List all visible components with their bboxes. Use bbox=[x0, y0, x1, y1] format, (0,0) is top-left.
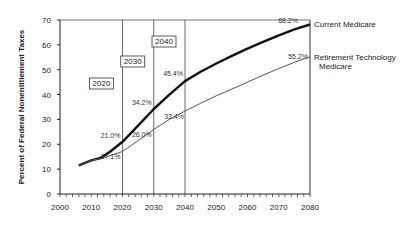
data-label: 55.2% bbox=[288, 53, 308, 60]
x-tick-label: 2070 bbox=[270, 203, 288, 212]
data-labels: 21.0%34.2%45.4%68.2%17.1%26.0%33.4%55.2% bbox=[101, 17, 308, 160]
data-label: 17.1% bbox=[101, 153, 121, 160]
y-tick-label: 0 bbox=[47, 190, 52, 199]
x-tick-label: 2050 bbox=[207, 203, 225, 212]
legend-label: Retirement Technology bbox=[314, 53, 396, 62]
data-label: 33.4% bbox=[164, 113, 184, 120]
y-tick-label: 20 bbox=[42, 140, 51, 149]
reference-label-2020: 2020 bbox=[93, 79, 111, 88]
data-label: 45.4% bbox=[163, 70, 183, 77]
y-tick-label: 60 bbox=[42, 41, 51, 50]
legend-label: Current Medicare bbox=[314, 20, 376, 29]
reference-label-2030: 2030 bbox=[124, 57, 142, 66]
x-tick-label: 2010 bbox=[82, 203, 100, 212]
data-label: 68.2% bbox=[278, 17, 298, 24]
x-tick-label: 2030 bbox=[145, 203, 163, 212]
chart: Percent of Federal Nonentitlement Taxes … bbox=[0, 0, 412, 230]
data-label: 21.0% bbox=[101, 132, 121, 139]
x-tick-label: 2020 bbox=[114, 203, 132, 212]
x-tick-label: 2000 bbox=[51, 203, 69, 212]
y-axis-label: Percent of Federal Nonentitlement Taxes bbox=[17, 29, 26, 184]
x-tick-label: 2060 bbox=[239, 203, 257, 212]
y-tick-label: 10 bbox=[42, 165, 51, 174]
reference-lines: 202020302040 bbox=[90, 20, 186, 194]
y-tick-label: 30 bbox=[42, 115, 51, 124]
data-label: 34.2% bbox=[132, 99, 152, 106]
series-lines bbox=[79, 25, 310, 166]
legend: Current MedicareRetirement TechnologyMed… bbox=[314, 20, 396, 70]
data-label: 26.0% bbox=[132, 131, 152, 138]
x-tick-label: 2080 bbox=[301, 203, 319, 212]
reference-label-2040: 2040 bbox=[155, 37, 173, 46]
y-tick-label: 70 bbox=[42, 16, 51, 25]
y-tick-label: 50 bbox=[42, 66, 51, 75]
series-line-current-medicare bbox=[79, 25, 310, 166]
legend-label: Medicare bbox=[319, 62, 352, 71]
y-axis-title: Percent of Federal Nonentitlement Taxes bbox=[17, 29, 26, 184]
x-tick-label: 2040 bbox=[176, 203, 194, 212]
y-tick-label: 40 bbox=[42, 91, 51, 100]
